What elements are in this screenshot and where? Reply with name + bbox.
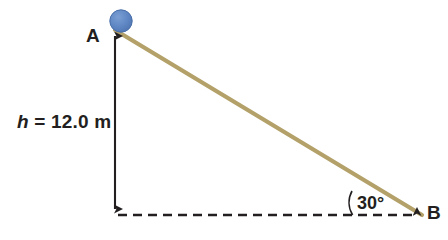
point-a-label: A bbox=[86, 26, 100, 45]
height-label: h = 12.0 m bbox=[17, 112, 111, 131]
height-equals: = bbox=[29, 111, 51, 132]
height-unit: m bbox=[89, 111, 112, 132]
height-value: 12.0 bbox=[51, 111, 89, 132]
point-b-label: B bbox=[427, 203, 441, 222]
physics-diagram: A B h = 12.0 m 30° bbox=[0, 0, 448, 240]
ball-icon bbox=[110, 10, 132, 32]
angle-label: 30° bbox=[357, 194, 384, 212]
incline-line bbox=[115, 30, 422, 215]
height-variable: h bbox=[17, 111, 29, 132]
angle-arc bbox=[349, 191, 353, 215]
